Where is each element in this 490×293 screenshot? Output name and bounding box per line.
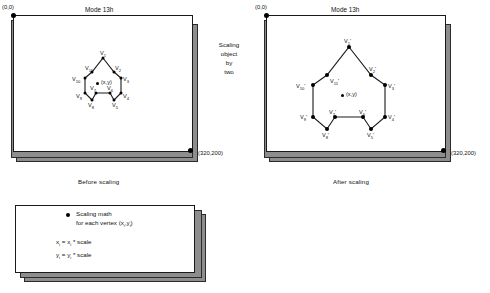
before-center-dot bbox=[96, 82, 99, 85]
after-vertex-dot-v10 bbox=[311, 83, 315, 87]
after-origin-dot bbox=[264, 13, 269, 18]
before-vertex-label-v7: V7 bbox=[90, 85, 96, 93]
after-center-label: (x,y) bbox=[346, 91, 357, 97]
before-vertex-label-v6: V6 bbox=[107, 85, 113, 93]
after-vertex-label-v1: V1' bbox=[344, 38, 351, 46]
before-mode-title: Mode 13h bbox=[85, 6, 113, 13]
math-bullet-title: Scaling math bbox=[76, 210, 112, 217]
before-vertex-label-v2: V2 bbox=[115, 65, 121, 73]
after-vertex-label-v4: V4' bbox=[388, 114, 395, 122]
transition-note-line-2: object bbox=[206, 49, 252, 58]
before-caption: Before scaling bbox=[78, 178, 119, 185]
before-scaling-panel: Mode 13h (0,0) (320,200) V1 V2 V3 V4 V5 … bbox=[0, 0, 215, 195]
before-vertex-label-v11: V11 bbox=[85, 65, 93, 73]
after-vertex-label-v6: V6' bbox=[359, 109, 366, 117]
after-polygon-group: V1' V2' V3' V4' V5' V6' V7' V8' V9' V10'… bbox=[297, 40, 409, 150]
transition-note-line-3: by bbox=[206, 58, 252, 67]
before-vertex-label-v5: V5 bbox=[112, 102, 118, 110]
after-origin-label: (0,0) bbox=[255, 4, 267, 10]
after-vertex-dot-v9 bbox=[311, 115, 315, 119]
after-scaling-panel: Mode 13h (0,0) (320,200) V1' V2' V3' V4'… bbox=[253, 0, 490, 195]
before-vertex-label-v4: V4 bbox=[123, 93, 129, 101]
after-vertex-dot-v4 bbox=[383, 115, 387, 119]
after-center-dot bbox=[341, 94, 344, 97]
after-vertex-dot-v11 bbox=[325, 73, 329, 77]
after-vertex-label-v5: V5' bbox=[367, 132, 374, 140]
scaling-math-panel: Scaling math for each vertex (xi,yi) xi … bbox=[14, 200, 224, 288]
after-vertex-label-v2: V2' bbox=[369, 66, 376, 74]
before-vertex-label-v9: V9 bbox=[76, 93, 82, 101]
before-vertex-dot-v9 bbox=[84, 92, 87, 95]
math-formula-y: yi = yi * scale bbox=[56, 251, 92, 260]
transition-note: Scaling object by two bbox=[206, 40, 252, 76]
before-vertex-label-v8: V8 bbox=[88, 102, 94, 110]
before-vertex-label-v1: V1 bbox=[100, 50, 106, 58]
after-extent-dot bbox=[441, 148, 446, 153]
transition-note-line-1: Scaling bbox=[206, 40, 252, 49]
before-extent-label: (320,200) bbox=[198, 150, 223, 156]
after-vertex-label-v9: V9' bbox=[300, 114, 307, 122]
after-vertex-label-v8: V8' bbox=[322, 132, 329, 140]
before-vertex-label-v3: V3 bbox=[123, 76, 129, 84]
math-bullet-icon bbox=[66, 213, 70, 217]
after-polygon-shape bbox=[313, 47, 385, 129]
before-vertex-dot-v10 bbox=[84, 77, 87, 80]
after-mode-title: Mode 13h bbox=[331, 6, 359, 13]
after-vertex-label-v10: V10' bbox=[296, 83, 305, 91]
before-polygon-group: V1 V2 V3 V4 V5 V6 V7 V8 V9 V10 V11 (x,y) bbox=[63, 52, 143, 134]
after-vertex-label-v7: V7' bbox=[329, 109, 336, 117]
after-vertex-dot-v5 bbox=[369, 127, 373, 131]
before-origin-dot bbox=[11, 13, 16, 18]
before-polygon-svg bbox=[63, 52, 143, 134]
math-bullet-subtitle: for each vertex (xi,yi) bbox=[76, 219, 133, 228]
before-extent-dot bbox=[188, 148, 193, 153]
math-formula-x: xi = xi * scale bbox=[56, 238, 92, 247]
transition-note-line-4: two bbox=[206, 67, 252, 76]
before-vertex-label-v10: V10 bbox=[72, 76, 80, 84]
before-center-label: (x,y) bbox=[101, 79, 112, 85]
after-extent-label: (320,200) bbox=[451, 150, 476, 156]
before-origin-label: (0,0) bbox=[2, 4, 14, 10]
after-vertex-label-v3: V3' bbox=[388, 83, 395, 91]
after-caption: After scaling bbox=[333, 178, 369, 185]
after-vertex-label-v11: V11' bbox=[330, 78, 339, 86]
after-vertex-dot-v8 bbox=[325, 127, 329, 131]
after-vertex-dot-v3 bbox=[383, 83, 387, 87]
